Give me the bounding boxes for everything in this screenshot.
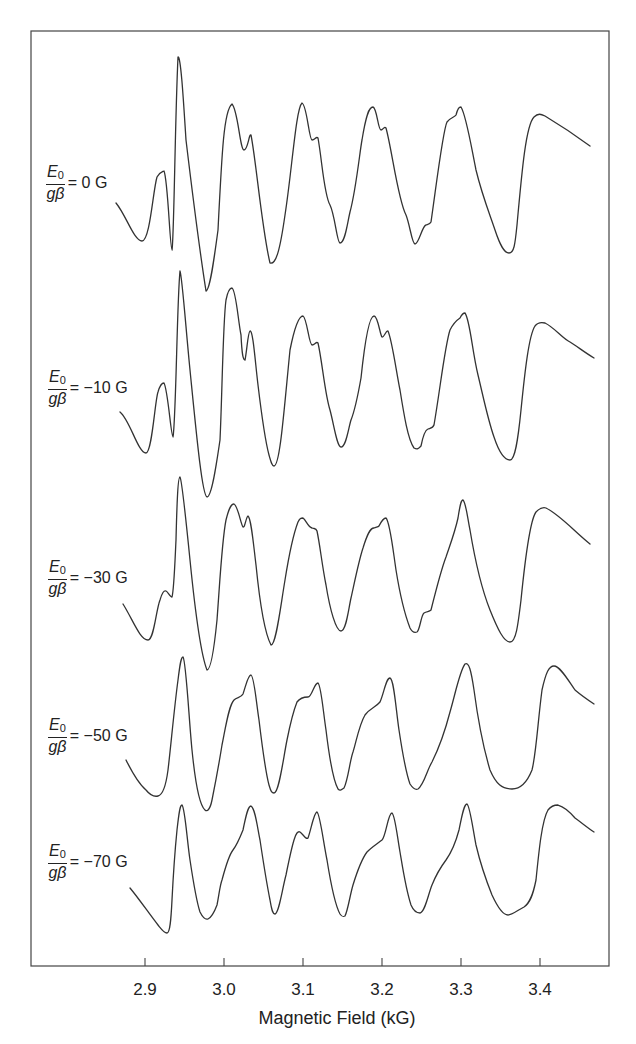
- x-tick-label: 3.2: [370, 980, 394, 999]
- label-value: = 0 G: [68, 174, 108, 192]
- subscript: 0: [60, 722, 66, 734]
- fraction: E0 gβ: [48, 843, 67, 881]
- x-tick-label: 3.3: [449, 980, 473, 999]
- fraction: E0 gβ: [46, 164, 65, 202]
- plot-area: 2.9 3.0 3.1 3.2 3.3 3.4 Magnetic Field (…: [0, 0, 636, 1044]
- label-value: = −70 G: [70, 853, 128, 871]
- fraction: E0 gβ: [48, 369, 67, 407]
- x-axis-title: Magnetic Field (kG): [258, 1008, 415, 1028]
- label-value: = −10 G: [70, 379, 128, 397]
- trace-label-minus50G: E0 gβ = −50 G: [48, 717, 128, 755]
- denominator: gβ: [48, 580, 66, 597]
- fraction: E0 gβ: [48, 559, 67, 597]
- label-value: = −30 G: [70, 569, 128, 587]
- label-value: = −50 G: [70, 727, 128, 745]
- x-tick-label: 2.9: [133, 980, 157, 999]
- denominator: gβ: [48, 390, 66, 407]
- x-axis: 2.9 3.0 3.1 3.2 3.3 3.4 Magnetic Field (…: [133, 958, 552, 1028]
- epr-spectra-figure: 2.9 3.0 3.1 3.2 3.3 3.4 Magnetic Field (…: [0, 0, 636, 1044]
- trace-minus70G: [130, 804, 594, 933]
- trace-minus10G: [120, 271, 594, 497]
- subscript: 0: [58, 169, 64, 181]
- trace-minus30G: [123, 477, 590, 670]
- numerator: E: [49, 368, 60, 385]
- trace-label-0G: E0 gβ = 0 G: [46, 164, 107, 202]
- subscript: 0: [60, 564, 66, 576]
- trace-label-minus30G: E0 gβ = −30 G: [48, 559, 128, 597]
- denominator: gβ: [48, 738, 66, 755]
- trace-minus50G: [126, 657, 594, 811]
- trace-label-minus10G: E0 gβ = −10 G: [48, 369, 128, 407]
- x-tick-label: 3.0: [212, 980, 236, 999]
- subscript: 0: [60, 374, 66, 386]
- numerator: E: [49, 716, 60, 733]
- numerator: E: [47, 163, 58, 180]
- numerator: E: [49, 558, 60, 575]
- x-tick-label: 3.4: [528, 980, 552, 999]
- fraction: E0 gβ: [48, 717, 67, 755]
- trace-0G: [116, 57, 590, 291]
- x-tick-label: 3.1: [291, 980, 315, 999]
- numerator: E: [49, 842, 60, 859]
- denominator: gβ: [48, 864, 66, 881]
- subscript: 0: [60, 848, 66, 860]
- trace-label-minus70G: E0 gβ = −70 G: [48, 843, 128, 881]
- denominator: gβ: [46, 185, 64, 202]
